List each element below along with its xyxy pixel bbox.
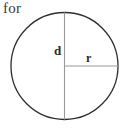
diameter-label: d: [54, 44, 61, 57]
diagram-canvas: [0, 0, 124, 129]
radius-label: r: [86, 52, 91, 64]
circle-diagram-figure: for d r: [0, 0, 124, 129]
